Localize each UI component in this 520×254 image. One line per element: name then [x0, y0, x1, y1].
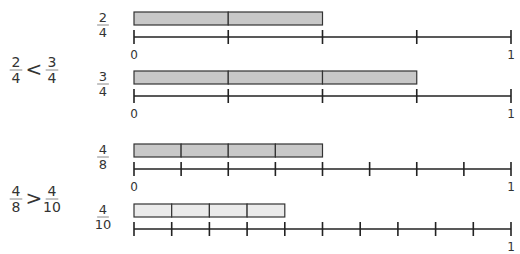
fraction-bar-segment: [134, 71, 228, 84]
number-line-fraction-label-numerator: 4: [99, 202, 107, 217]
number-line-end-label: 1: [507, 240, 515, 254]
fraction-bar-segment: [247, 204, 285, 217]
comparison-operator: >: [26, 186, 43, 210]
number-line-start-label: 0: [130, 107, 138, 121]
comparison-right-fraction-numerator: 3: [48, 54, 57, 70]
number-line-end-label: 1: [507, 107, 515, 121]
number-line-end-label: 1: [507, 180, 515, 194]
fraction-bar-segment: [209, 204, 247, 217]
comparison-right-fraction-denominator: 10: [43, 199, 61, 215]
number-line-fraction-label-numerator: 2: [99, 10, 107, 25]
number-line-start-label: 0: [130, 48, 138, 62]
number-line-fraction-label-denominator: 10: [95, 217, 112, 232]
fraction-bar-segment: [228, 71, 322, 84]
number-line-start-label: 0: [130, 180, 138, 194]
comparison-left-fraction-denominator: 4: [12, 70, 21, 86]
number-line-fraction-label-denominator: 8: [99, 157, 107, 172]
fraction-bar-segment: [228, 12, 322, 25]
number-line-fraction-label-denominator: 4: [99, 25, 107, 40]
fraction-bar-segment: [275, 144, 322, 157]
fraction-bar-segment: [134, 12, 228, 25]
number-line-end-label: 1: [507, 48, 515, 62]
number-line-fraction-label-numerator: 3: [99, 69, 107, 84]
comparison-left-fraction-numerator: 4: [12, 183, 21, 199]
fraction-bar-segment: [172, 204, 210, 217]
fraction-bar-segment: [228, 144, 275, 157]
comparison-right-fraction-denominator: 4: [48, 70, 57, 86]
comparison-left-fraction-numerator: 2: [12, 54, 21, 70]
comparison-right-fraction-numerator: 4: [48, 183, 57, 199]
fraction-bar-segment: [134, 144, 181, 157]
fraction-bar-segment: [181, 144, 228, 157]
fraction-number-line-diagram: 012401340148141024<3448>410: [0, 0, 520, 254]
comparison-left-fraction-denominator: 8: [12, 199, 21, 215]
fraction-bar-segment: [323, 71, 417, 84]
number-line-fraction-label-denominator: 4: [99, 84, 107, 99]
fraction-bar-segment: [134, 204, 172, 217]
number-line-fraction-label-numerator: 4: [99, 142, 107, 157]
comparison-operator: <: [26, 57, 43, 81]
